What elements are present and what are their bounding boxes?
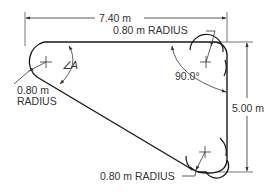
angle-symbol: ∠ bbox=[62, 59, 71, 71]
bottom-right-radius-arrow bbox=[196, 152, 205, 170]
height-label: 5.00 m bbox=[232, 102, 264, 114]
track-diagram: 7.40 m 5.00 m 0.80 m RADIUS ∠A 0.80 m RA… bbox=[0, 0, 274, 192]
top-right-radius-line bbox=[206, 46, 211, 62]
right-angle-arc bbox=[172, 46, 226, 92]
bottom-right-radius-label: 0.80 m RADIUS bbox=[100, 170, 175, 182]
width-label: 7.40 m bbox=[99, 12, 131, 24]
top-left-radius-arrow bbox=[29, 62, 46, 71]
angle-a-label: ∠A bbox=[62, 59, 78, 71]
bottom-right-arc-mark-upper bbox=[220, 138, 226, 156]
top-right-radius-leader bbox=[206, 31, 215, 46]
top-right-arc-mark-lower bbox=[224, 60, 226, 76]
angle-letter: A bbox=[70, 59, 78, 71]
top-left-radius-leader bbox=[14, 71, 29, 84]
top-left-radius-word: RADIUS bbox=[17, 95, 57, 107]
bottom-right-radius-leader-tick bbox=[195, 171, 196, 176]
top-right-radius-label: 0.80 m RADIUS bbox=[113, 24, 188, 36]
bottom-right-corner-arc bbox=[190, 160, 227, 173]
right-angle-label: 90.0° bbox=[175, 70, 200, 82]
track-outline bbox=[29, 42, 228, 178]
